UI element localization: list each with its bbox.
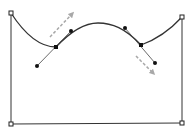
- bezier-path[interactable]: [11, 13, 182, 47]
- left-handle-out-point[interactable]: [69, 29, 73, 33]
- bezier-diagram: [0, 0, 192, 129]
- right-handle-in-point[interactable]: [123, 26, 127, 30]
- left-anchor-point[interactable]: [54, 45, 58, 49]
- right-handle-out-point[interactable]: [153, 61, 157, 65]
- left-handle-in-point[interactable]: [35, 64, 39, 68]
- right-anchor-point[interactable]: [139, 43, 143, 47]
- corner-point-top-right[interactable]: [180, 15, 184, 19]
- corner-point-bottom-right[interactable]: [180, 121, 184, 125]
- frame-edges: [11, 13, 182, 124]
- drag-arrow-down-icon: [136, 56, 153, 73]
- corner-point-bottom-left[interactable]: [9, 122, 13, 126]
- corner-point-top-left[interactable]: [9, 11, 13, 15]
